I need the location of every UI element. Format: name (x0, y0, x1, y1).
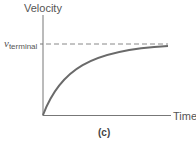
figure-caption: (c) (98, 127, 110, 138)
figure: Velocity Time vterminal (c) (0, 0, 196, 151)
terminal-velocity-label: vterminal (4, 37, 37, 51)
v-subscript: terminal (9, 42, 37, 51)
velocity-curve (43, 46, 168, 115)
y-axis-label: Velocity (24, 2, 62, 14)
x-axis-label: Time (173, 110, 196, 122)
